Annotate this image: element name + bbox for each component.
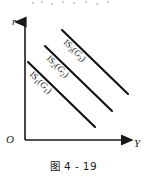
y-axis-label: r bbox=[12, 16, 16, 27]
figure-caption: 图 4 - 19 bbox=[0, 158, 147, 173]
figure-container: r Y O IS3(G3) IS2(G2) IS1(G1) 图 4 - 19 bbox=[0, 0, 147, 184]
x-axis-label: Y bbox=[134, 138, 140, 149]
plot-area bbox=[0, 0, 147, 184]
origin-label: O bbox=[6, 134, 14, 145]
